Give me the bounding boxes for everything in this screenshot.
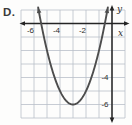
y-axis-label: y [116, 4, 123, 14]
x-tick-label: -6 [27, 26, 35, 35]
grid-lines [21, 10, 125, 118]
y-tick-label: -4 [101, 73, 109, 82]
answer-choice-d-graph: D. -6-4-2-4-6yx [0, 0, 132, 125]
x-axis-label: x [118, 28, 123, 38]
tick-labels: -6-4-2-4-6 [27, 26, 109, 110]
y-tick-label: -6 [101, 100, 109, 109]
x-axis [20, 21, 130, 26]
x-tick-label: -2 [79, 26, 87, 35]
x-tick-label: -4 [53, 26, 61, 35]
parabola-graph-canvas: -6-4-2-4-6yx [0, 0, 132, 125]
